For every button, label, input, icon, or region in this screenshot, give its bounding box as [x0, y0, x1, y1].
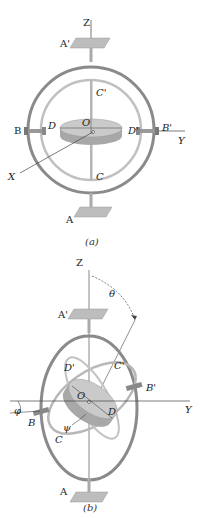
label-a-prime: A' — [59, 38, 70, 49]
label-psi: ψ — [63, 422, 71, 433]
label-a-prime-b: A' — [57, 309, 68, 320]
label-phi: φ — [14, 405, 21, 416]
label-a-b: A — [59, 486, 68, 497]
gyroscope-figure: Z A' C' B D O D' B' Y X C A (a) — [0, 0, 204, 518]
label-b-prime-b: B' — [145, 382, 156, 393]
plate-a-prime — [70, 38, 110, 48]
label-z: Z — [83, 17, 90, 28]
label-y: Y — [178, 135, 186, 146]
label-y-b: Y — [185, 404, 193, 415]
label-c-prime-b: C' — [114, 360, 124, 371]
label-b-prime: B' — [161, 122, 172, 133]
label-b-b: B — [27, 417, 35, 428]
label-d-b: D — [107, 406, 116, 417]
label-c-b: C — [55, 434, 63, 445]
pivot-b-prime — [140, 129, 156, 133]
pivot-b — [26, 129, 42, 133]
label-c-prime: C' — [96, 87, 106, 98]
label-z-b: Z — [76, 257, 83, 268]
plate-a-prime-b — [68, 309, 108, 319]
label-a: A — [65, 214, 74, 225]
shaft-a-prime — [90, 48, 93, 62]
label-d-prime-b: D' — [63, 362, 75, 373]
caption-a: (a) — [85, 236, 99, 247]
label-o-b: O — [77, 390, 85, 401]
plate-a-b — [70, 492, 108, 502]
plate-a — [74, 207, 112, 217]
caption-b: (b) — [83, 502, 97, 513]
label-c: C — [96, 171, 104, 182]
label-o: O — [82, 117, 90, 128]
figure-b: Z θ A' D' C' B' O φ B D Y ψ C A (b) — [10, 257, 193, 513]
label-d-prime: D' — [127, 125, 139, 136]
label-b: B — [14, 125, 21, 136]
figure-a: Z A' C' B D O D' B' Y X C A (a) — [7, 17, 186, 247]
label-d: D — [47, 120, 56, 131]
label-x: X — [7, 171, 16, 182]
label-theta: θ — [109, 288, 115, 299]
